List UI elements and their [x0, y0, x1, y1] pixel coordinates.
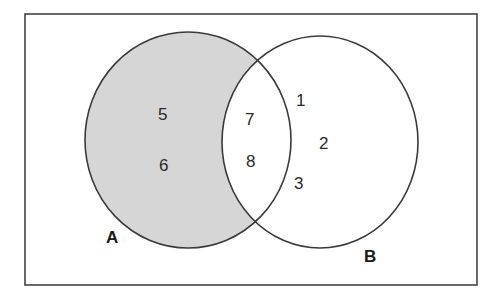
element-3: 3: [294, 174, 303, 193]
element-7: 7: [245, 110, 254, 129]
set-a-label: A: [106, 228, 118, 247]
element-8: 8: [246, 152, 255, 171]
venn-diagram: 5 6 7 8 1 2 3 A B: [0, 0, 492, 295]
set-b-label: B: [364, 247, 376, 266]
element-5: 5: [158, 105, 167, 124]
element-1: 1: [296, 91, 305, 110]
element-2: 2: [319, 134, 328, 153]
element-6: 6: [159, 156, 168, 175]
